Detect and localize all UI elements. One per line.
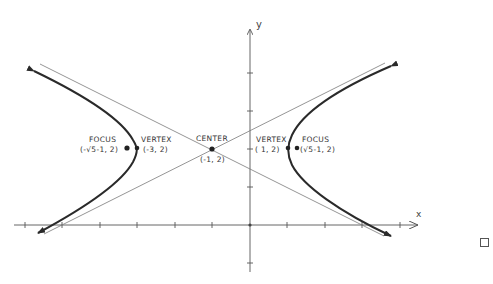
center-label: CENTER [196, 134, 228, 143]
focus-right-label: FOCUS [302, 135, 329, 144]
center-point [209, 146, 214, 151]
vertex-right-coords: ( 1, 2) [255, 145, 280, 154]
vertex-left-point [135, 146, 140, 151]
checkbox-icon [480, 238, 489, 247]
vertex-left-label: VERTEX [141, 135, 172, 144]
y-axis-label: y [256, 19, 262, 30]
focus-left-point [124, 145, 129, 150]
focus-right-point [295, 146, 300, 151]
focus-left-label: FOCUS [89, 135, 116, 144]
center-coords: (-1, 2) [200, 155, 225, 164]
focus-left-coords: (-√5-1, 2) [80, 145, 118, 154]
vertex-right-label: VERTEX [256, 135, 287, 144]
x-axis-label: x [416, 209, 421, 219]
vertex-right-point [286, 146, 291, 151]
hyperbola-diagram [0, 0, 493, 284]
y-axis [247, 30, 253, 272]
vertex-left-coords: (-3, 2) [143, 145, 168, 154]
focus-right-coords: (√5-1, 2) [300, 145, 335, 154]
